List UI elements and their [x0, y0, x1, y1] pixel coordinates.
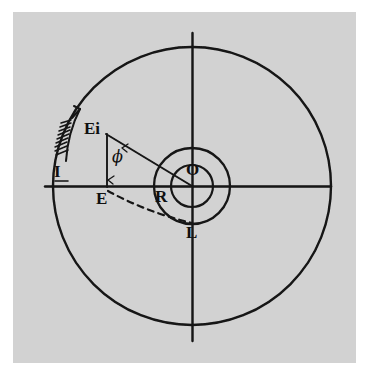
label-field-point-Ei: Ei — [84, 120, 100, 137]
label-radius-R: R — [155, 188, 167, 205]
label-axis-point-E: E — [96, 190, 107, 207]
figure-root: O R L E I Ei ϕ — [0, 0, 371, 378]
diagram-canvas — [0, 0, 371, 378]
label-center-O: O — [186, 161, 199, 178]
label-current-I: I — [54, 163, 61, 180]
dashed-arc-E-L — [108, 191, 192, 223]
label-angle-phi: ϕ — [112, 149, 123, 165]
label-lower-point-L: L — [186, 224, 197, 241]
angle-tick-lower — [108, 176, 114, 184]
